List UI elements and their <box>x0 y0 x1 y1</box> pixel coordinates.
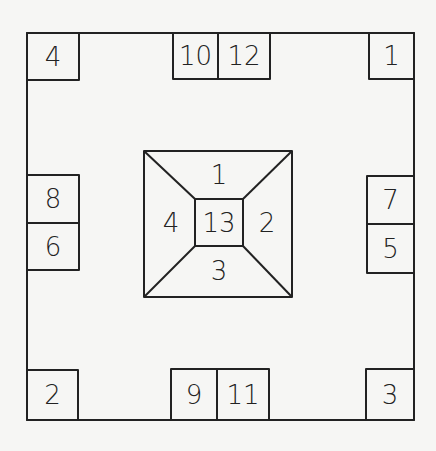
label-right-b: 5 <box>367 224 414 273</box>
pyramid-label-bottom: 3 <box>195 250 243 292</box>
pyramid-label-center: 13 <box>195 199 243 246</box>
label-bottom-left: 2 <box>27 370 78 420</box>
pyramid-label-left: 4 <box>150 199 192 246</box>
label-bottom-a: 9 <box>171 369 217 420</box>
pyramid-label-top: 1 <box>195 155 243 195</box>
label-right-a: 7 <box>367 176 414 224</box>
pyramid-label-right: 2 <box>246 199 288 246</box>
numbered-square-diagram: 4 1 2 3 10 12 9 11 8 6 7 5 1 2 3 4 13 <box>0 0 436 451</box>
label-left-a: 8 <box>27 175 79 223</box>
label-bottom-right: 3 <box>366 369 414 420</box>
label-top-a: 10 <box>173 33 218 79</box>
label-top-right: 1 <box>369 33 414 79</box>
label-bottom-b: 11 <box>217 369 269 420</box>
label-top-b: 12 <box>218 33 270 79</box>
label-top-left: 4 <box>27 33 79 80</box>
label-left-b: 6 <box>27 223 79 270</box>
